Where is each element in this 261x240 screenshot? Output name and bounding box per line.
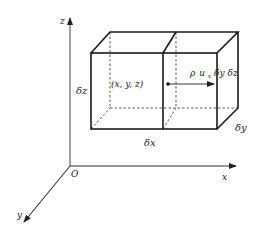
divider-top-depth-edge [163,32,176,53]
flux-u: u [199,68,205,78]
right-face-outline [217,32,238,129]
mass-flux-label: ρ u x δy δz [189,68,238,80]
back-bottom-left-depth-edge [91,108,110,129]
control-volume-diagram: z x y O δz δx δy (x, y, z) ρ u x δy δz [0,0,261,240]
origin-label: O [71,169,79,179]
point-coordinates-label: (x, y, z) [111,79,144,89]
dz-label: δz [76,85,88,96]
flux-rho: ρ [189,68,196,78]
divider-bottom-depth-edge [163,108,176,129]
y-axis [24,166,70,222]
flux-area-term: δy δz [214,68,238,78]
dy-label: δy [235,122,247,133]
dx-label: δx [144,137,156,148]
flux-u-subscript: x [208,72,212,79]
z-axis-label: z [59,16,65,26]
x-axis-label: x [222,172,227,182]
y-axis-label: y [16,210,23,220]
coordinate-axes [24,18,236,222]
